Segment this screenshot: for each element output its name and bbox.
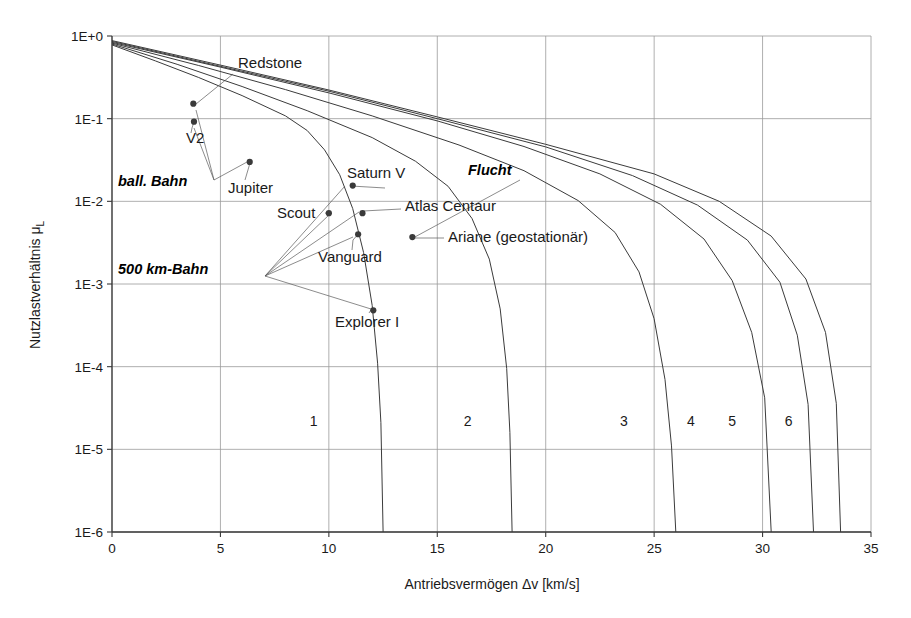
data-point-label: Explorer I [335, 313, 399, 330]
y-tick-label: 1E-6 [74, 525, 103, 540]
y-tick-label: 1E-2 [74, 194, 103, 209]
x-tick-label: 10 [321, 541, 336, 556]
curve-number-2: 2 [464, 413, 472, 429]
data-point [247, 159, 253, 165]
data-point [350, 182, 356, 188]
x-tick-label: 15 [430, 541, 445, 556]
curve-number-4: 4 [687, 413, 695, 429]
x-tick-label: 30 [755, 541, 770, 556]
chart-figure: ball. Bahn500 km-BahnFlucht RedstoneV2Ju… [0, 0, 911, 618]
y-tick-label: 1E-1 [74, 112, 103, 127]
data-point [326, 210, 332, 216]
y-tick-label: 1E-3 [74, 277, 103, 292]
x-tick-label: 0 [108, 541, 116, 556]
y-axis-title-text: Nutzlastverhältnis μ [27, 227, 43, 349]
data-point-label: V2 [186, 129, 204, 146]
curve-number-5: 5 [728, 413, 736, 429]
y-tick-label: 1E+0 [71, 29, 103, 44]
chart-background [0, 0, 911, 618]
data-point-label: Saturn V [347, 164, 405, 181]
region-label: 500 km-Bahn [118, 261, 208, 277]
y-tick-label: 1E-5 [74, 442, 103, 457]
data-point-label: Vanguard [318, 248, 382, 265]
data-point [359, 210, 365, 216]
data-point [191, 119, 197, 125]
x-tick-label: 20 [538, 541, 553, 556]
x-tick-label: 5 [217, 541, 225, 556]
x-axis-title: Antriebsvermögen Δv [km/s] [404, 576, 579, 592]
curve-number-6: 6 [785, 413, 793, 429]
data-point [409, 234, 415, 240]
data-point [190, 101, 196, 107]
region-label: ball. Bahn [118, 173, 187, 189]
curve-number-1: 1 [310, 413, 318, 429]
region-label: Flucht [468, 162, 513, 178]
payload-ratio-vs-delta-v-chart: ball. Bahn500 km-BahnFlucht RedstoneV2Ju… [0, 0, 911, 618]
data-point [355, 231, 361, 237]
data-point-label: Redstone [238, 54, 302, 71]
data-point-label: Jupiter [228, 179, 273, 196]
x-tick-label: 25 [647, 541, 662, 556]
y-tick-label: 1E-4 [74, 360, 103, 375]
curve-number-3: 3 [620, 413, 628, 429]
data-point-label: Scout [277, 204, 316, 221]
x-tick-label: 35 [863, 541, 878, 556]
data-point-label: Ariane (geostationär) [448, 228, 588, 245]
y-axis-title-subscript: L [35, 221, 46, 227]
data-point-label: Atlas Centaur [405, 197, 496, 214]
